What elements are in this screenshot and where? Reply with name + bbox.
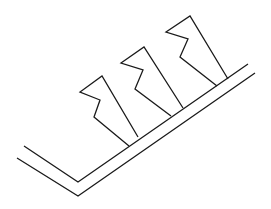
- base-inner-line: [24, 64, 248, 182]
- fin-2: [121, 47, 183, 116]
- fin-1: [80, 76, 138, 146]
- fin-diagram: [0, 0, 271, 209]
- diagram-canvas: [0, 0, 271, 209]
- fin-3: [166, 16, 228, 86]
